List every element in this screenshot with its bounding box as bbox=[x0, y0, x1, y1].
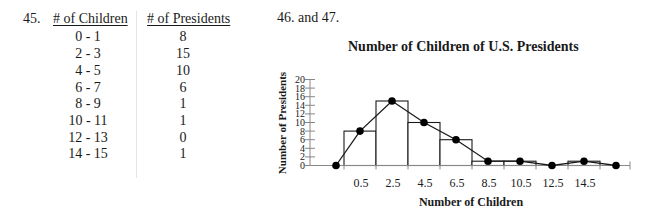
x-tick-label: 14.5 bbox=[575, 176, 596, 190]
data-point bbox=[388, 97, 396, 105]
histogram-bar bbox=[440, 140, 472, 166]
data-point bbox=[516, 157, 524, 165]
data-point bbox=[420, 119, 428, 127]
y-tick-label: 20 bbox=[295, 74, 305, 85]
x-tick-label: 8.5 bbox=[482, 176, 497, 190]
data-point bbox=[548, 162, 556, 170]
x-tick-label: 6.5 bbox=[450, 176, 465, 190]
histogram-chart: Number of Presidents 02468101214161820 0… bbox=[0, 0, 653, 217]
data-point bbox=[612, 162, 620, 170]
y-axis-label: Number of Presidents bbox=[276, 71, 288, 174]
y-axis: 02468101214161820 bbox=[295, 74, 315, 171]
data-point bbox=[580, 157, 588, 165]
data-point bbox=[452, 136, 460, 144]
svg-text:Number of Presidents: Number of Presidents bbox=[276, 71, 288, 174]
x-tick-label: 2.5 bbox=[386, 176, 401, 190]
x-tick-label: 4.5 bbox=[418, 176, 433, 190]
x-tick-labels: 0.52.54.56.58.510.512.514.5 bbox=[354, 176, 596, 190]
x-axis-label: Number of Children bbox=[419, 195, 524, 209]
histogram-bar bbox=[344, 131, 376, 165]
x-tick-label: 10.5 bbox=[511, 176, 532, 190]
data-point bbox=[484, 157, 492, 165]
data-point bbox=[332, 162, 340, 170]
data-point bbox=[356, 127, 364, 135]
x-tick-label: 0.5 bbox=[354, 176, 369, 190]
x-tick-label: 12.5 bbox=[543, 176, 564, 190]
